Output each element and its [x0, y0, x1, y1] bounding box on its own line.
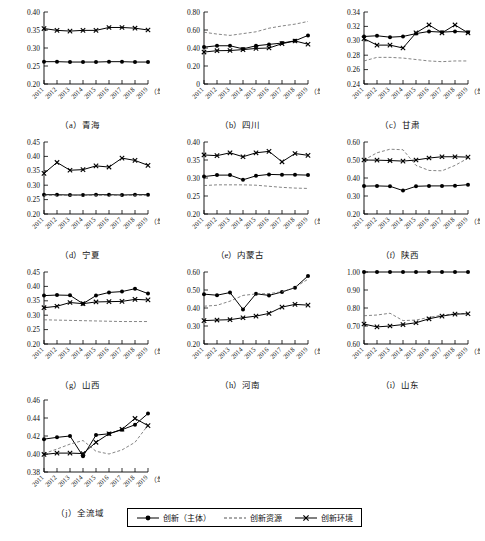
legend-item-innovation-subject[interactable]: 创新（主体）	[136, 512, 211, 523]
x-tick-label: 2018	[281, 85, 296, 100]
data-point-marker-circle	[94, 433, 98, 437]
data-point-marker-circle	[55, 193, 59, 197]
y-tick-label: 0.35	[27, 26, 40, 35]
data-point-marker-circle	[306, 173, 310, 177]
data-point-marker-circle	[215, 293, 219, 297]
series-line-resource	[204, 21, 308, 35]
x-tick-label: 2017	[428, 215, 443, 230]
y-tick-label: 0.50	[187, 286, 200, 295]
data-point-marker-circle	[42, 193, 46, 197]
y-tick-label: 0.30	[27, 181, 40, 190]
data-point-marker-cross	[427, 23, 431, 27]
x-tick-label: 2016	[255, 85, 270, 100]
y-tick-label: 0.30	[187, 174, 200, 183]
y-tick-label: 0.40	[187, 44, 200, 53]
x-tick-label: 2017	[108, 85, 123, 100]
data-point-marker-circle	[81, 60, 85, 64]
x-tick-label: 2015	[82, 215, 97, 230]
legend-label: 创新（主体）	[163, 512, 211, 523]
x-tick-label: 2014	[229, 85, 244, 100]
data-point-marker-circle	[267, 172, 271, 176]
line-chart-a: 0.200.250.300.350.4020112012201320142015…	[0, 2, 160, 130]
series-line-environment	[364, 314, 468, 327]
data-point-marker-circle	[241, 307, 245, 311]
data-point-marker-circle	[427, 184, 431, 188]
x-tick-label: 2015	[242, 85, 257, 100]
line-chart-j: 0.380.400.420.440.4620112012201320142015…	[0, 390, 160, 518]
x-tick-label: 2016	[415, 215, 430, 230]
chart-panel-b: 00.200.400.600.8020112012201320142015201…	[160, 2, 320, 130]
y-tick-label: 0.40	[27, 8, 40, 17]
data-point-marker-cross	[146, 423, 150, 427]
x-tick-label: 2017	[108, 473, 123, 488]
chart-panel-e: 0.200.250.300.350.4020112012201320142015…	[160, 132, 320, 260]
x-tick-label: 2016	[95, 473, 110, 488]
data-point-marker-circle	[427, 29, 431, 33]
y-tick-label: 0.60	[187, 268, 200, 277]
data-point-marker-circle	[146, 412, 150, 416]
data-point-marker-circle	[306, 274, 310, 278]
x-tick-label: 2013	[56, 85, 71, 100]
x-tick-label: 2013	[56, 345, 71, 360]
x-tick-label: 2014	[389, 345, 404, 360]
x-tick-label: 2012	[43, 346, 57, 360]
axes-d	[44, 142, 148, 214]
line-chart-h: 0.200.300.400.500.6020112012201320142015…	[160, 262, 320, 390]
x-tick-label: 2012	[363, 346, 377, 360]
data-point-marker-circle	[120, 290, 124, 294]
legend-label: 创新环境	[321, 512, 353, 523]
data-point-marker-circle	[107, 60, 111, 64]
y-tick-label: 0.40	[27, 450, 40, 459]
y-tick-label: 0.30	[187, 322, 200, 331]
x-tick-label: 2016	[255, 345, 270, 360]
y-tick-label: 0.20	[187, 62, 200, 71]
x-tick-label: 2012	[43, 216, 57, 230]
x-tick-label: 2019	[134, 473, 149, 488]
data-point-marker-circle	[388, 270, 392, 274]
x-axis-unit-label: （年份）	[310, 347, 320, 356]
x-axis-unit-label: （年份）	[470, 347, 480, 356]
x-tick-label: 2014	[389, 215, 404, 230]
y-tick-label: 0.25	[27, 195, 40, 204]
y-tick-label: 0.32	[347, 22, 360, 31]
series-line-environment	[44, 299, 148, 307]
x-axis-unit-label: （年份）	[470, 87, 480, 96]
x-tick-label: 2012	[43, 86, 57, 100]
legend-item-innovation-resource[interactable]: 创新资源	[223, 512, 282, 523]
x-tick-label: 2013	[216, 85, 231, 100]
data-point-marker-circle	[42, 437, 46, 441]
x-tick-label: 2017	[268, 215, 283, 230]
x-tick-label: 2015	[82, 473, 97, 488]
x-tick-label: 2017	[428, 345, 443, 360]
x-tick-label: 2018	[441, 345, 456, 360]
chart-panel-a: 0.200.250.300.350.4020112012201320142015…	[0, 2, 160, 130]
x-tick-label: 2016	[95, 345, 110, 360]
data-point-marker-cross	[453, 23, 457, 27]
y-tick-label: 0.30	[27, 44, 40, 53]
x-tick-label: 2012	[203, 346, 217, 360]
data-point-marker-circle	[414, 184, 418, 188]
data-point-marker-circle	[146, 292, 150, 296]
y-tick-label: 0.90	[347, 286, 360, 295]
x-axis-unit-label: （年份）	[470, 217, 480, 226]
x-tick-label: 2018	[281, 215, 296, 230]
axes-h	[204, 272, 308, 344]
panel-caption-h: （h）河南	[160, 378, 320, 390]
x-tick-label: 2015	[402, 345, 417, 360]
data-point-marker-circle	[375, 270, 379, 274]
y-tick-label: 0.30	[27, 311, 40, 320]
y-tick-label: 0.44	[27, 414, 40, 423]
x-tick-label: 2013	[216, 345, 231, 360]
chart-legend: 创新（主体）创新资源创新环境	[127, 508, 362, 527]
data-point-marker-circle	[146, 60, 150, 64]
x-tick-label: 2014	[69, 85, 84, 100]
y-tick-label: 0.60	[187, 26, 200, 35]
data-point-marker-circle	[42, 294, 46, 298]
data-point-marker-circle	[453, 270, 457, 274]
legend-item-innovation-environment[interactable]: 创新环境	[294, 512, 353, 523]
x-tick-label: 2013	[56, 215, 71, 230]
data-point-marker-circle	[228, 44, 232, 48]
x-tick-label: 2016	[415, 85, 430, 100]
series-line-resource	[44, 320, 148, 322]
y-tick-label: 0.70	[347, 322, 360, 331]
